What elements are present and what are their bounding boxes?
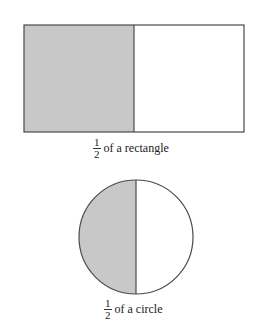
fraction-diagrams [0, 0, 258, 330]
circle-caption-text: of a circle [115, 302, 163, 317]
rectangle-caption: 1 2 of a rectangle [93, 137, 169, 160]
circle-figure [79, 180, 193, 294]
rectangle-shaded-half [24, 25, 134, 132]
rectangle-figure [24, 25, 244, 132]
circle-shaded-half [79, 180, 136, 294]
fraction-denominator: 2 [104, 310, 112, 321]
circle-fraction: 1 2 [104, 298, 112, 321]
rectangle-caption-text: of a rectangle [104, 141, 169, 156]
rectangle-fraction: 1 2 [93, 137, 101, 160]
circle-caption: 1 2 of a circle [104, 298, 162, 321]
fraction-denominator: 2 [93, 149, 101, 160]
